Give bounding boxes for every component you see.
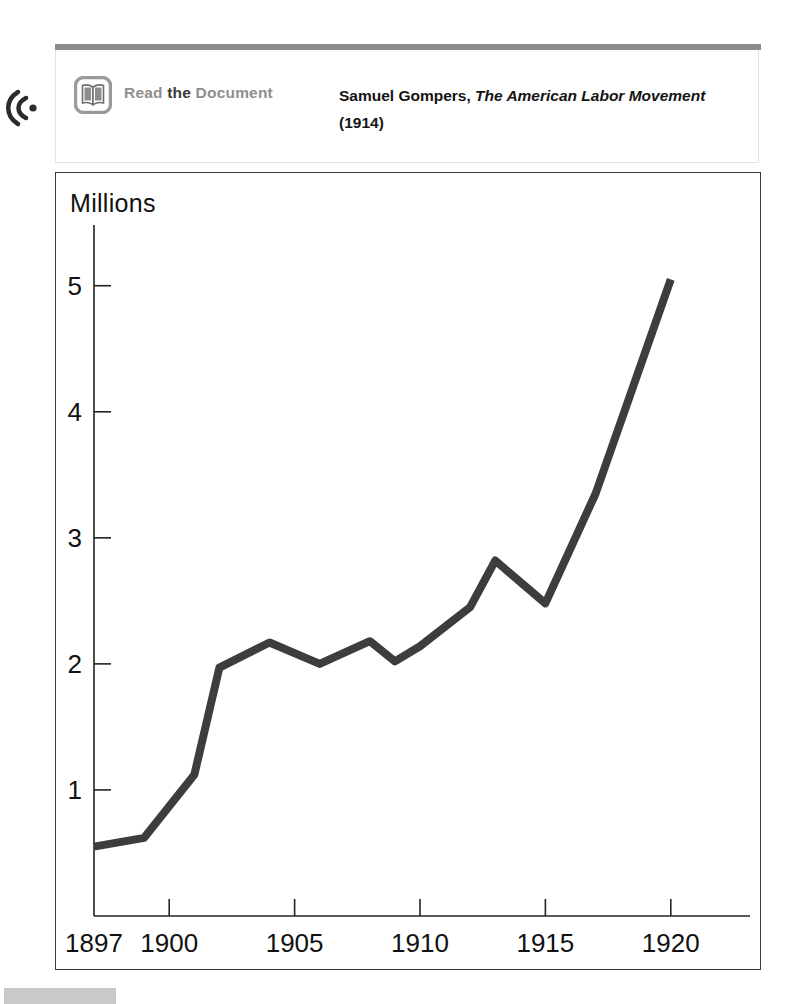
x-tick-label: 1897 — [65, 928, 123, 958]
x-tick-label: 1905 — [266, 928, 324, 958]
document-citation[interactable]: Samuel Gompers, The American Labor Movem… — [339, 82, 739, 136]
citation-author: Samuel Gompers, — [339, 87, 475, 104]
x-tick-label: 1915 — [516, 928, 574, 958]
x-tick-label: 1910 — [391, 928, 449, 958]
y-tick-label: 2 — [68, 649, 82, 679]
page-footer-marker — [4, 988, 116, 1004]
y-tick-label: 4 — [68, 397, 82, 427]
x-tick-label: 1900 — [140, 928, 198, 958]
citation-title: The American Labor Movement — [475, 87, 705, 104]
document-word: Document — [196, 84, 273, 101]
chart-container: Millions 12345189719001905191019151920 — [55, 172, 761, 970]
audio-speaker-icon[interactable] — [6, 84, 48, 132]
x-tick-label: 1920 — [642, 928, 700, 958]
open-book-icon[interactable] — [74, 76, 112, 114]
line-chart-plot: 12345189719001905191019151920 — [56, 173, 760, 969]
citation-year: (1914) — [339, 114, 384, 131]
read-the-document-panel: Read the Document Samuel Gompers, The Am… — [55, 50, 759, 163]
y-tick-label: 1 — [68, 775, 82, 805]
read-word: Read — [124, 84, 163, 101]
the-word: the — [163, 84, 196, 101]
y-tick-label: 5 — [68, 271, 82, 301]
y-tick-label: 3 — [68, 523, 82, 553]
read-the-document-label[interactable]: Read the Document — [124, 84, 273, 102]
data-series-line — [94, 279, 671, 846]
